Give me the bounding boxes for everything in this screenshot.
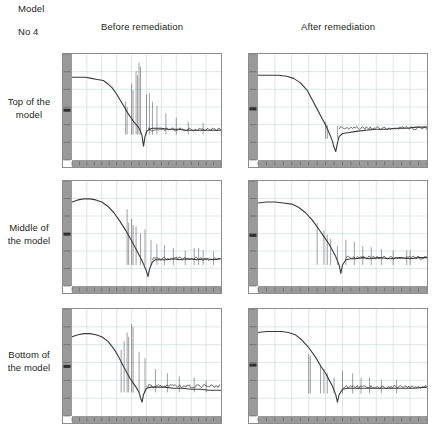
x-axis-ticks	[258, 288, 427, 292]
y-axis-reference-marker	[250, 364, 257, 367]
x-axis-ticks	[72, 162, 221, 166]
spectrum-plot	[248, 180, 428, 294]
chart-middle-after	[248, 180, 428, 294]
row-label-top-of-model: Top of the model	[0, 95, 58, 121]
spectrum-plot	[248, 308, 428, 424]
chart-top-after	[248, 53, 428, 168]
x-axis-ticks	[72, 288, 221, 292]
chart-bottom-after	[248, 308, 428, 424]
x-axis-ticks	[258, 162, 427, 166]
row-label-line2: the model	[0, 361, 58, 374]
chart-bottom-before	[62, 308, 222, 424]
row-label-line1: Top of the	[0, 95, 58, 108]
y-axis-reference-marker	[64, 365, 71, 368]
spectrum-plot	[62, 308, 222, 424]
row-label-line1: Bottom of	[0, 348, 58, 361]
y-axis-reference-marker	[250, 107, 257, 110]
x-axis-ticks	[72, 418, 221, 422]
chart-top-before	[62, 53, 222, 168]
row-label-line2: model	[0, 108, 58, 121]
row-label-middle-of-model: Middle of the model	[0, 221, 58, 247]
y-axis-reference-marker	[64, 233, 71, 236]
chart-middle-before	[62, 180, 222, 294]
y-axis-reference-marker	[250, 234, 257, 237]
row-label-bottom-of-model: Bottom of the model	[0, 348, 58, 374]
spectrum-plot	[62, 180, 222, 294]
spectrum-plot	[62, 53, 222, 168]
model-number-label: No 4	[18, 27, 38, 37]
row-label-line2: the model	[0, 234, 58, 247]
model-label: Model	[18, 4, 44, 14]
column-header-after-remediation: After remediation	[248, 21, 428, 32]
column-header-before-remediation: Before remediation	[62, 21, 222, 32]
row-label-line1: Middle of	[0, 221, 58, 234]
spectrum-plot	[248, 53, 428, 168]
x-axis-ticks	[258, 418, 427, 422]
y-axis-reference-marker	[64, 109, 71, 112]
